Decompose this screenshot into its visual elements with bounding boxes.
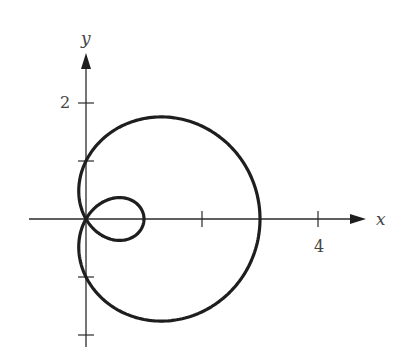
x-tick-label-4: 4 <box>314 237 324 256</box>
y-tick-label-2: 2 <box>60 93 70 112</box>
y-axis-label: y <box>80 28 91 48</box>
x-axis-arrowhead-icon <box>350 214 366 224</box>
y-axis-arrowhead-icon <box>81 53 91 69</box>
polar-plot: x y 4 2 <box>0 0 405 364</box>
x-axis-label: x <box>376 209 386 229</box>
